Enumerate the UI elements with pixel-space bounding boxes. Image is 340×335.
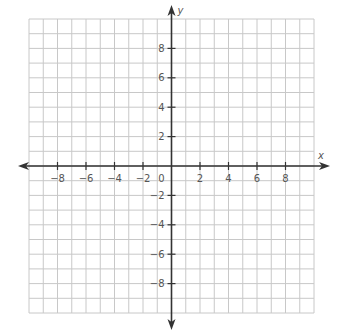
x-tick-label: 6	[254, 173, 260, 184]
y-tick-label: 2	[158, 131, 164, 142]
x-tick-label: −8	[50, 173, 65, 184]
x-tick-label: −2	[136, 173, 151, 184]
y-tick-label: −8	[150, 278, 165, 289]
y-tick-label: −2	[150, 190, 165, 201]
x-tick-label: −6	[79, 173, 94, 184]
y-tick-label: −6	[150, 249, 165, 260]
origin-label: 0	[158, 173, 164, 184]
x-axis-label: x	[317, 150, 324, 161]
axes	[18, 5, 330, 330]
x-tick-label: 4	[225, 173, 231, 184]
x-tick-label: 8	[282, 173, 288, 184]
y-tick-label: 6	[158, 72, 164, 83]
coordinate-plane: −8−6−4−224688642−2−4−6−8 x y 0	[0, 0, 340, 335]
x-tick-label: −4	[107, 173, 122, 184]
y-tick-label: 8	[158, 43, 164, 54]
x-tick-label: 2	[197, 173, 203, 184]
y-axis-label: y	[177, 5, 185, 16]
y-tick-label: 4	[158, 102, 164, 113]
y-tick-label: −4	[150, 219, 165, 230]
